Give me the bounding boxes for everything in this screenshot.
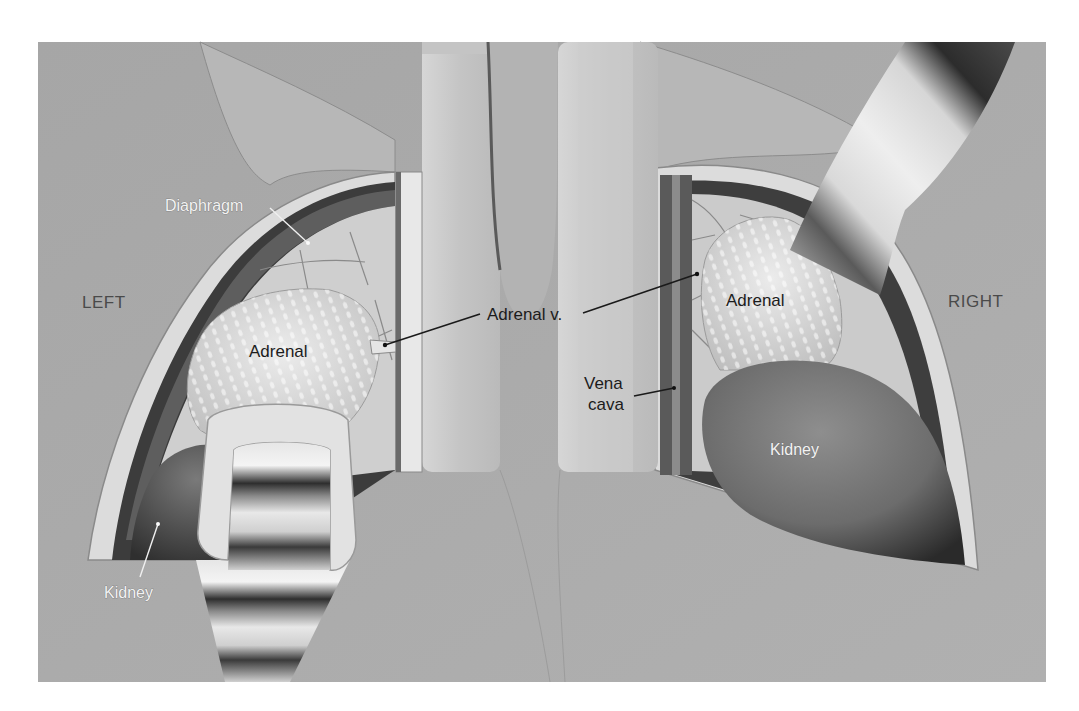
left-kidney-label: Kidney (104, 584, 153, 601)
right-side-label: RIGHT (948, 292, 1003, 311)
vena-cava-label-line2: cava (588, 395, 624, 414)
left-retractor-blade[interactable] (422, 42, 500, 472)
adrenalectomy-illustration: LEFT RIGHT Diaphragm Adrenal Adrenal v. … (0, 0, 1079, 711)
left-side-label: LEFT (82, 293, 126, 312)
side-label-left: LEFT (82, 293, 126, 312)
right-adrenal-label: Adrenal (726, 291, 785, 310)
side-label-right: RIGHT (948, 292, 1003, 311)
vena-cava-label-line1: Vena (584, 374, 623, 393)
right-kidney-label: Kidney (770, 441, 819, 458)
diaphragm-label: Diaphragm (165, 197, 243, 214)
adrenal-vein-label: Adrenal v. (487, 305, 562, 324)
left-adrenal-label: Adrenal (249, 342, 308, 361)
